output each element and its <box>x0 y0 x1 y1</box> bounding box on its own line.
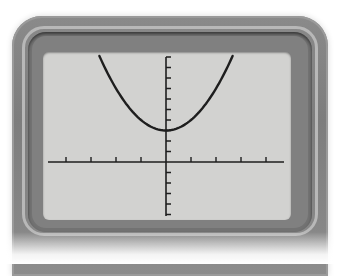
calculator-screen <box>43 52 291 220</box>
function-graph <box>43 52 291 220</box>
axes <box>48 57 284 216</box>
bottom-fade <box>0 232 340 264</box>
